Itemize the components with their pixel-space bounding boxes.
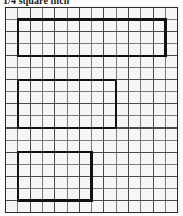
graph-paper-page: 1/4 square inch <box>0 0 183 216</box>
grid-svg <box>4 6 180 213</box>
grid-container <box>4 6 180 213</box>
